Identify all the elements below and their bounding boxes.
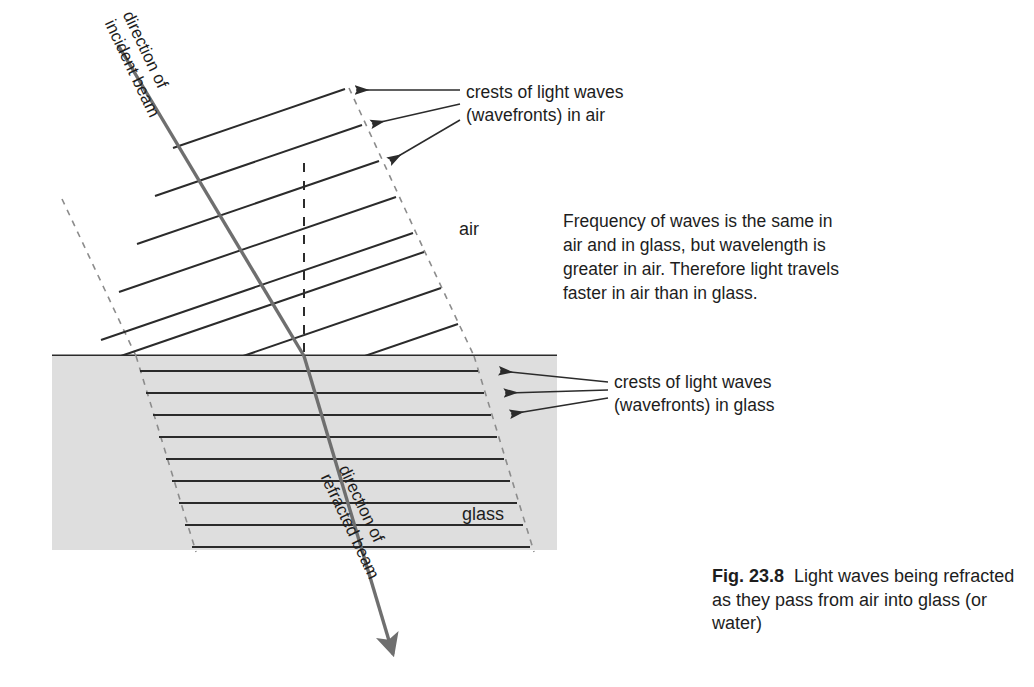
refraction-figure: direction of incident beam direction of …: [0, 0, 1034, 687]
crests-glass-annotation: crests of light waves (wavefronts) in gl…: [614, 371, 774, 417]
note-line-2: air and in glass, but wavelength is: [563, 233, 826, 257]
air-crest-leaders: [356, 90, 460, 161]
incident-beam-edge-right: [349, 88, 424, 250]
crests-air-annotation: crests of light waves (wavefronts) in ai…: [466, 81, 624, 127]
note-line-3: greater in air. Therefore light travels: [563, 257, 839, 281]
figure-caption-spacer: [784, 566, 794, 586]
air-label: air: [459, 219, 479, 240]
note-line-1: Frequency of waves is the same in: [563, 209, 832, 233]
note-line-4: faster in air than in glass.: [563, 281, 758, 305]
figure-caption-label: Fig. 23.8: [712, 566, 784, 586]
glass-label: glass: [462, 504, 504, 525]
incident-beam-edge-right-lower: [424, 250, 474, 356]
figure-caption: Fig. 23.8 Light waves being refracted as…: [712, 565, 1022, 636]
